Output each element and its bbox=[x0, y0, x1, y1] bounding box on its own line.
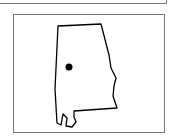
location-marker bbox=[66, 64, 73, 71]
alabama-map bbox=[0, 0, 178, 138]
state-outline bbox=[55, 24, 117, 127]
